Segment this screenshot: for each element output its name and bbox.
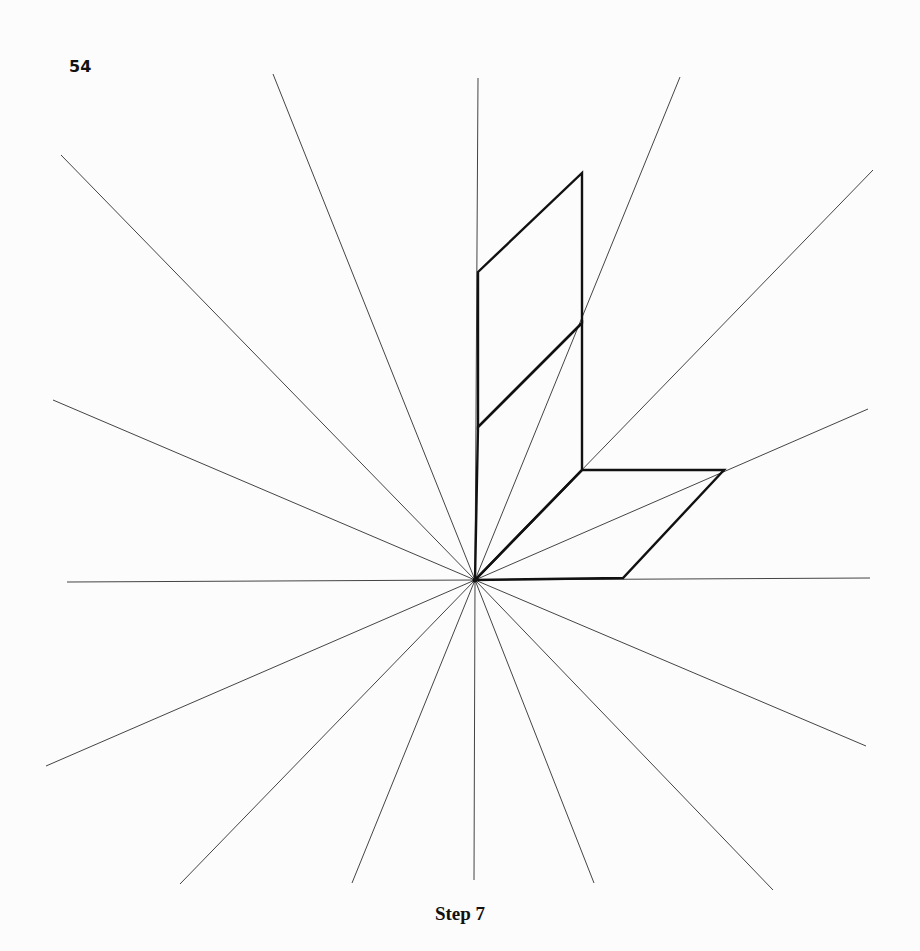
isometric-shapes	[475, 173, 724, 580]
guide-ray-5	[273, 74, 475, 580]
guide-ray-15	[475, 580, 866, 746]
step-caption: Step 7	[0, 903, 920, 925]
upper-parallelogram	[478, 173, 582, 427]
guide-ray-12	[474, 580, 475, 880]
guide-ray-7	[53, 400, 475, 580]
guide-ray-8	[67, 580, 475, 582]
guide-ray-6	[61, 155, 475, 580]
guide-rays	[46, 74, 873, 890]
radial-guide-diagram	[0, 0, 920, 951]
guide-ray-10	[180, 580, 475, 884]
guide-ray-14	[475, 580, 773, 890]
guide-ray-13	[475, 580, 594, 883]
center-point	[473, 578, 478, 583]
